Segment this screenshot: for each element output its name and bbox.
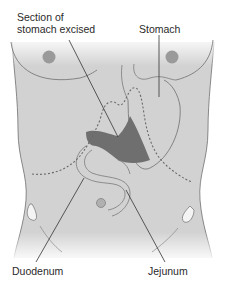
label-section-excised: Section of stomach excised: [17, 11, 95, 35]
jejunum-end: [97, 199, 106, 208]
left-nipple: [43, 51, 56, 64]
label-duodenum: Duodenum: [12, 265, 63, 277]
abdomen-diagram: [0, 0, 226, 288]
label-excised-line2: stomach excised: [17, 23, 95, 35]
label-excised-line1: Section of: [17, 11, 95, 23]
label-jejunum: Jejunum: [148, 265, 188, 277]
right-nipple: [166, 51, 179, 64]
label-stomach: Stomach: [139, 23, 180, 35]
